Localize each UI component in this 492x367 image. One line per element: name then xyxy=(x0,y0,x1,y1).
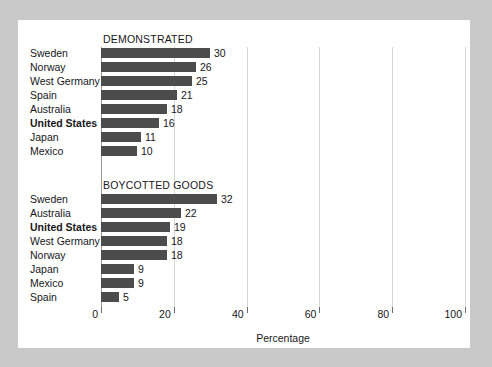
table-row: Sweden30 xyxy=(18,47,470,61)
bar-united-states xyxy=(101,222,170,232)
row-label-australia: Australia xyxy=(30,103,71,116)
bar-spain xyxy=(101,90,177,100)
bar-value-australia: 22 xyxy=(185,207,197,220)
table-row: Mexico9 xyxy=(18,277,470,291)
bar-sweden xyxy=(101,48,210,58)
row-label-united-states: United States xyxy=(30,221,97,234)
bar-value-mexico: 9 xyxy=(138,277,144,290)
table-row: Japan11 xyxy=(18,131,470,145)
bar-value-spain: 5 xyxy=(123,291,129,304)
row-label-west-germany: West Germany xyxy=(30,235,100,248)
bar-sweden xyxy=(101,194,217,204)
tick-label-20: 20 xyxy=(134,308,171,320)
tick-mark-0 xyxy=(101,307,102,313)
bar-japan xyxy=(101,264,134,274)
table-row: Spain21 xyxy=(18,89,470,103)
row-label-spain: Spain xyxy=(30,89,57,102)
row-label-sweden: Sweden xyxy=(30,193,68,206)
row-label-japan: Japan xyxy=(30,131,59,144)
table-row: Norway26 xyxy=(18,61,470,75)
bar-value-japan: 11 xyxy=(145,131,156,144)
bar-west-germany xyxy=(101,76,192,86)
row-label-west-germany: West Germany xyxy=(30,75,100,88)
section-title-1: DEMONSTRATED xyxy=(103,33,193,45)
tick-mark-80 xyxy=(392,307,393,313)
table-row: West Germany25 xyxy=(18,75,470,89)
bar-united-states xyxy=(101,118,159,128)
tick-mark-100 xyxy=(465,307,466,313)
bar-norway xyxy=(101,62,196,72)
bar-value-west-germany: 18 xyxy=(171,235,183,248)
table-row: Mexico10 xyxy=(18,145,470,159)
tick-mark-20 xyxy=(174,307,175,313)
table-row: Spain5 xyxy=(18,291,470,305)
tick-label-0: 0 xyxy=(61,308,98,320)
bar-japan xyxy=(101,132,141,142)
chart-plot-area: DEMONSTRATEDSweden30Norway26West Germany… xyxy=(18,20,470,348)
bar-value-japan: 9 xyxy=(138,263,144,276)
bar-value-australia: 18 xyxy=(171,103,183,116)
tick-mark-40 xyxy=(247,307,248,313)
bar-value-west-germany: 25 xyxy=(196,75,208,88)
section-title-2: BOYCOTTED GOODS xyxy=(103,179,213,191)
row-label-spain: Spain xyxy=(30,291,57,304)
row-label-mexico: Mexico xyxy=(30,145,63,158)
table-row: Australia18 xyxy=(18,103,470,117)
row-label-united-states: United States xyxy=(30,117,97,130)
tick-mark-60 xyxy=(319,307,320,313)
bar-australia xyxy=(101,208,181,218)
bar-value-spain: 21 xyxy=(181,89,193,102)
row-label-sweden: Sweden xyxy=(30,47,68,60)
table-row: United States16 xyxy=(18,117,470,131)
bar-west-germany xyxy=(101,236,167,246)
bar-norway xyxy=(101,250,167,260)
bar-value-sweden: 30 xyxy=(214,47,226,60)
bar-value-norway: 26 xyxy=(200,61,212,74)
axis-title-percentage: Percentage xyxy=(133,332,433,344)
tick-label-80: 80 xyxy=(352,308,389,320)
tick-label-100: 100 xyxy=(425,308,462,320)
table-row: Sweden32 xyxy=(18,193,470,207)
row-label-australia: Australia xyxy=(30,207,71,220)
table-row: United States19 xyxy=(18,221,470,235)
bar-value-norway: 18 xyxy=(171,249,183,262)
bar-spain xyxy=(101,292,119,302)
row-label-mexico: Mexico xyxy=(30,277,63,290)
bar-value-mexico: 10 xyxy=(141,145,153,158)
table-row: West Germany18 xyxy=(18,235,470,249)
row-label-norway: Norway xyxy=(30,249,66,262)
table-row: Norway18 xyxy=(18,249,470,263)
bar-value-sweden: 32 xyxy=(221,193,233,206)
tick-label-40: 40 xyxy=(207,308,244,320)
table-row: Japan9 xyxy=(18,263,470,277)
table-row: Australia22 xyxy=(18,207,470,221)
bar-value-united-states: 16 xyxy=(163,117,175,130)
row-label-japan: Japan xyxy=(30,263,59,276)
chart-figure: DEMONSTRATEDSweden30Norway26West Germany… xyxy=(18,20,470,348)
bar-value-united-states: 19 xyxy=(174,221,186,234)
bar-australia xyxy=(101,104,167,114)
tick-label-60: 60 xyxy=(279,308,316,320)
bar-mexico xyxy=(101,146,137,156)
row-label-norway: Norway xyxy=(30,61,66,74)
bar-mexico xyxy=(101,278,134,288)
